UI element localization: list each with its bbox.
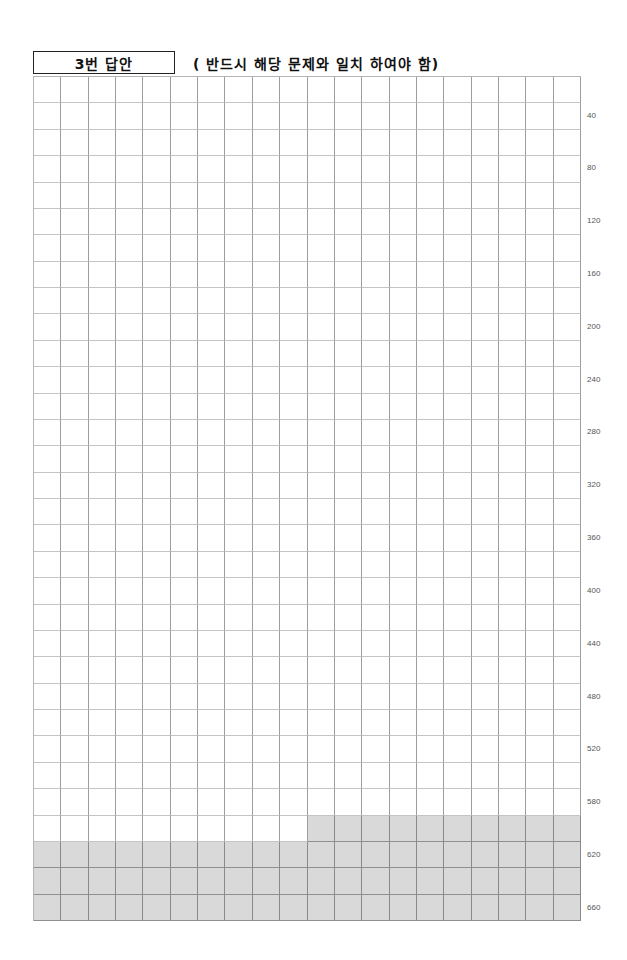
grid-cell-shaded[interactable] bbox=[554, 868, 581, 894]
grid-cell[interactable] bbox=[280, 235, 307, 261]
grid-cell[interactable] bbox=[308, 473, 335, 499]
grid-cell[interactable] bbox=[554, 657, 581, 683]
grid-cell[interactable] bbox=[554, 209, 581, 235]
grid-cell[interactable] bbox=[34, 736, 61, 762]
grid-cell[interactable] bbox=[253, 130, 280, 156]
grid-cell[interactable] bbox=[335, 209, 362, 235]
grid-cell[interactable] bbox=[444, 183, 471, 209]
grid-cell[interactable] bbox=[171, 657, 198, 683]
grid-cell[interactable] bbox=[308, 341, 335, 367]
grid-cell[interactable] bbox=[444, 446, 471, 472]
grid-cell[interactable] bbox=[143, 657, 170, 683]
grid-cell[interactable] bbox=[472, 77, 499, 103]
grid-cell[interactable] bbox=[335, 499, 362, 525]
grid-cell[interactable] bbox=[253, 763, 280, 789]
grid-cell[interactable] bbox=[171, 578, 198, 604]
grid-cell[interactable] bbox=[34, 130, 61, 156]
grid-cell[interactable] bbox=[362, 156, 389, 182]
grid-cell[interactable] bbox=[61, 816, 88, 842]
grid-cell[interactable] bbox=[61, 183, 88, 209]
grid-cell[interactable] bbox=[499, 103, 526, 129]
grid-cell[interactable] bbox=[472, 578, 499, 604]
grid-cell-shaded[interactable] bbox=[253, 842, 280, 868]
grid-cell[interactable] bbox=[116, 525, 143, 551]
grid-cell[interactable] bbox=[444, 156, 471, 182]
grid-cell[interactable] bbox=[253, 789, 280, 815]
grid-cell[interactable] bbox=[390, 657, 417, 683]
grid-cell[interactable] bbox=[253, 262, 280, 288]
grid-cell[interactable] bbox=[417, 156, 444, 182]
grid-cell[interactable] bbox=[61, 473, 88, 499]
grid-cell-shaded[interactable] bbox=[280, 868, 307, 894]
grid-cell[interactable] bbox=[526, 288, 553, 314]
grid-cell[interactable] bbox=[417, 789, 444, 815]
grid-cell[interactable] bbox=[198, 130, 225, 156]
grid-cell[interactable] bbox=[335, 631, 362, 657]
grid-cell[interactable] bbox=[61, 525, 88, 551]
grid-cell[interactable] bbox=[472, 631, 499, 657]
grid-cell-shaded[interactable] bbox=[472, 816, 499, 842]
grid-cell[interactable] bbox=[61, 631, 88, 657]
grid-cell[interactable] bbox=[89, 235, 116, 261]
grid-cell[interactable] bbox=[143, 684, 170, 710]
grid-cell[interactable] bbox=[554, 262, 581, 288]
grid-cell[interactable] bbox=[444, 605, 471, 631]
grid-cell[interactable] bbox=[34, 499, 61, 525]
grid-cell-shaded[interactable] bbox=[171, 842, 198, 868]
grid-cell[interactable] bbox=[444, 552, 471, 578]
grid-cell[interactable] bbox=[225, 605, 252, 631]
grid-cell[interactable] bbox=[362, 209, 389, 235]
grid-cell[interactable] bbox=[198, 183, 225, 209]
grid-cell-shaded[interactable] bbox=[472, 868, 499, 894]
grid-cell[interactable] bbox=[143, 130, 170, 156]
grid-cell[interactable] bbox=[280, 605, 307, 631]
grid-cell[interactable] bbox=[499, 446, 526, 472]
grid-cell[interactable] bbox=[89, 209, 116, 235]
grid-cell[interactable] bbox=[308, 789, 335, 815]
grid-cell[interactable] bbox=[61, 710, 88, 736]
grid-cell[interactable] bbox=[61, 156, 88, 182]
grid-cell[interactable] bbox=[89, 578, 116, 604]
grid-cell[interactable] bbox=[335, 262, 362, 288]
grid-cell[interactable] bbox=[499, 235, 526, 261]
grid-cell-shaded[interactable] bbox=[362, 816, 389, 842]
grid-cell[interactable] bbox=[526, 789, 553, 815]
grid-cell[interactable] bbox=[280, 684, 307, 710]
grid-cell[interactable] bbox=[444, 341, 471, 367]
grid-cell[interactable] bbox=[61, 736, 88, 762]
grid-cell-shaded[interactable] bbox=[390, 868, 417, 894]
grid-cell[interactable] bbox=[390, 130, 417, 156]
grid-cell[interactable] bbox=[526, 552, 553, 578]
grid-cell[interactable] bbox=[308, 631, 335, 657]
grid-cell[interactable] bbox=[308, 552, 335, 578]
grid-cell[interactable] bbox=[253, 77, 280, 103]
grid-cell[interactable] bbox=[198, 473, 225, 499]
grid-cell-shaded[interactable] bbox=[143, 842, 170, 868]
grid-cell[interactable] bbox=[34, 710, 61, 736]
grid-cell[interactable] bbox=[362, 473, 389, 499]
grid-cell[interactable] bbox=[362, 684, 389, 710]
grid-cell[interactable] bbox=[362, 235, 389, 261]
grid-cell[interactable] bbox=[390, 446, 417, 472]
grid-cell[interactable] bbox=[308, 763, 335, 789]
grid-cell-shaded[interactable] bbox=[472, 842, 499, 868]
grid-cell-shaded[interactable] bbox=[116, 868, 143, 894]
grid-cell[interactable] bbox=[362, 420, 389, 446]
grid-cell[interactable] bbox=[472, 235, 499, 261]
grid-cell[interactable] bbox=[526, 473, 553, 499]
grid-cell[interactable] bbox=[417, 183, 444, 209]
grid-cell[interactable] bbox=[472, 394, 499, 420]
grid-cell[interactable] bbox=[253, 367, 280, 393]
grid-cell[interactable] bbox=[253, 235, 280, 261]
grid-cell[interactable] bbox=[225, 288, 252, 314]
grid-cell[interactable] bbox=[362, 103, 389, 129]
grid-cell[interactable] bbox=[362, 367, 389, 393]
grid-cell[interactable] bbox=[308, 578, 335, 604]
grid-cell[interactable] bbox=[143, 420, 170, 446]
grid-cell[interactable] bbox=[335, 314, 362, 340]
grid-cell[interactable] bbox=[253, 525, 280, 551]
grid-cell[interactable] bbox=[280, 657, 307, 683]
grid-cell[interactable] bbox=[362, 552, 389, 578]
grid-cell[interactable] bbox=[499, 473, 526, 499]
grid-cell[interactable] bbox=[143, 710, 170, 736]
